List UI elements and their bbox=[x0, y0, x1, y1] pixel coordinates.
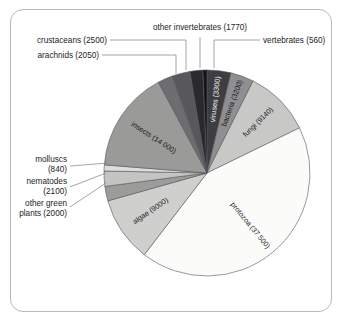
leader-arachnids bbox=[102, 55, 176, 74]
callout-other-green-plants-line2: plants (2000) bbox=[19, 209, 67, 218]
callout-molluscs-line1: molluscs bbox=[35, 155, 67, 164]
callout-molluscs-line2: (840) bbox=[48, 165, 67, 174]
pie-chart: other invertebrates (1770) vertebrates (… bbox=[0, 0, 343, 328]
callout-arachnids: arachnids (2050) bbox=[38, 51, 100, 60]
callout-crustaceans: crustaceans (2500) bbox=[37, 36, 107, 45]
callout-vertebrates: vertebrates (560) bbox=[263, 36, 326, 45]
pie-slices bbox=[104, 70, 310, 276]
leader-other-green-plants bbox=[70, 183, 106, 207]
callout-other-green-plants-line1: other green bbox=[25, 199, 67, 208]
callout-nematodes-line2: (2100) bbox=[43, 187, 67, 196]
leader-vertebrates bbox=[214, 40, 260, 68]
leader-nematodes bbox=[70, 173, 106, 187]
leader-molluscs bbox=[70, 163, 108, 166]
callout-nematodes-line1: nematodes bbox=[26, 177, 67, 186]
callout-other-invertebrates: other invertebrates (1770) bbox=[153, 23, 247, 32]
